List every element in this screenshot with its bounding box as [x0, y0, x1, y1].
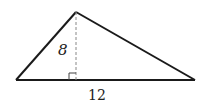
height-label: 8	[58, 41, 68, 59]
right-side	[76, 12, 195, 80]
right-angle-marker	[69, 73, 76, 80]
triangle-svg: 8 12	[0, 0, 207, 103]
triangle-diagram: 8 12	[0, 0, 207, 103]
base-label: 12	[88, 87, 106, 103]
